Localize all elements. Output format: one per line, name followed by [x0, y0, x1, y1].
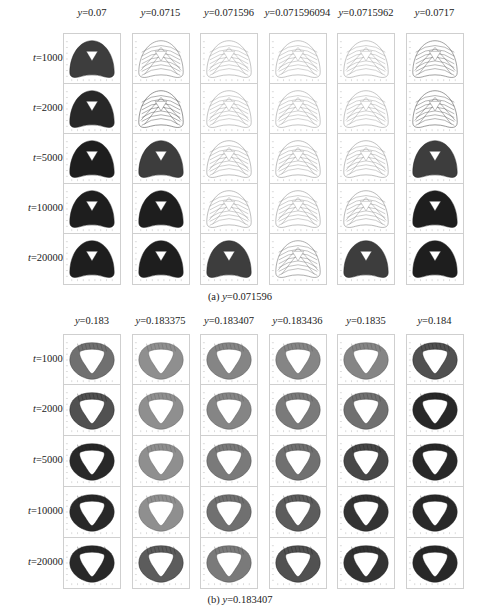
- column-header-a-5: y=0.0717: [395, 7, 475, 18]
- phase-portrait-plot: [132, 537, 190, 589]
- phase-portrait-plot: [269, 537, 327, 589]
- phase-portrait-plot: [63, 486, 121, 538]
- phase-portrait-plot: [200, 83, 258, 135]
- phase-portrait-plot: [200, 133, 258, 185]
- column-header-value: =0.071596094: [269, 7, 330, 18]
- phase-portrait-plot: [63, 83, 121, 135]
- column-header-value: =0.071596: [209, 7, 254, 18]
- phase-portrait-plot: [337, 33, 395, 85]
- phase-portrait-plot: [406, 486, 464, 538]
- row-label-value: =5000: [36, 152, 63, 163]
- phase-portrait-plot: [269, 486, 327, 538]
- column-header-value: =0.0715: [145, 7, 180, 18]
- phase-portrait-plot: [337, 486, 395, 538]
- caption-prefix: (b): [208, 594, 223, 605]
- row-label-value: =2000: [36, 102, 63, 113]
- phase-portrait-plot: [63, 33, 121, 85]
- phase-portrait-plot: [132, 486, 190, 538]
- phase-portrait-plot: [200, 537, 258, 589]
- phase-portrait-plot: [269, 435, 327, 487]
- phase-portrait-plot: [337, 183, 395, 235]
- caption-value: =0.183407: [227, 594, 272, 605]
- row-label-value: =1000: [36, 353, 63, 364]
- phase-portrait-plot: [63, 537, 121, 589]
- phase-portrait-plot: [406, 183, 464, 235]
- phase-portrait-plot: [132, 133, 190, 185]
- phase-portrait-plot: [200, 384, 258, 436]
- phase-portrait-plot: [269, 83, 327, 135]
- phase-portrait-plot: [200, 486, 258, 538]
- phase-portrait-plot: [337, 83, 395, 135]
- column-header-b-5: y=0.184: [395, 315, 475, 326]
- phase-portrait-plot: [63, 133, 121, 185]
- phase-portrait-plot: [406, 33, 464, 85]
- phase-portrait-plot: [200, 435, 258, 487]
- column-header-value: =0.183407: [209, 315, 254, 326]
- phase-portrait-plot: [269, 384, 327, 436]
- phase-portrait-plot: [337, 233, 395, 285]
- row-label-value: =10000: [31, 202, 63, 213]
- phase-portrait-plot: [269, 133, 327, 185]
- column-header-value: =0.184: [422, 315, 452, 326]
- column-header-value: =0.1835: [351, 315, 386, 326]
- phase-portrait-plot: [406, 537, 464, 589]
- column-header-value: =0.183375: [140, 315, 185, 326]
- phase-portrait-plot: [406, 384, 464, 436]
- caption-prefix: (a): [208, 291, 222, 302]
- phase-portrait-plot: [132, 334, 190, 386]
- phase-portrait-plot: [132, 33, 190, 85]
- row-label-value: =20000: [31, 556, 63, 567]
- phase-portrait-plot: [406, 233, 464, 285]
- phase-portrait-plot: [63, 233, 121, 285]
- phase-portrait-plot: [63, 334, 121, 386]
- phase-portrait-plot: [200, 183, 258, 235]
- row-label-value: =1000: [36, 52, 63, 63]
- phase-portrait-plot: [63, 435, 121, 487]
- phase-portrait-plot: [269, 233, 327, 285]
- phase-portrait-plot: [63, 384, 121, 436]
- column-header-value: =0.0717: [419, 7, 454, 18]
- phase-portrait-plot: [337, 334, 395, 386]
- column-header-value: =0.07: [82, 7, 106, 18]
- phase-portrait-plot: [406, 133, 464, 185]
- phase-portrait-plot: [63, 183, 121, 235]
- phase-portrait-plot: [132, 435, 190, 487]
- phase-portrait-plot: [269, 183, 327, 235]
- phase-portrait-plot: [200, 33, 258, 85]
- phase-portrait-plot: [200, 233, 258, 285]
- figure-caption-b: (b) y=0.183407: [0, 594, 480, 605]
- row-label-value: =20000: [31, 252, 63, 263]
- column-header-value: =0.0715962: [343, 7, 394, 18]
- phase-portrait-plot: [132, 233, 190, 285]
- column-header-value: =0.183: [80, 315, 110, 326]
- column-header-value: =0.183436: [277, 315, 322, 326]
- phase-portrait-plot: [337, 133, 395, 185]
- phase-portrait-plot: [406, 83, 464, 135]
- phase-portrait-plot: [200, 334, 258, 386]
- phase-portrait-plot: [337, 435, 395, 487]
- phase-portrait-plot: [269, 33, 327, 85]
- row-label-value: =5000: [36, 454, 63, 465]
- phase-portrait-plot: [337, 537, 395, 589]
- phase-portrait-plot: [132, 183, 190, 235]
- caption-value: =0.071596: [227, 291, 272, 302]
- phase-portrait-plot: [132, 384, 190, 436]
- phase-portrait-plot: [337, 384, 395, 436]
- row-label-value: =10000: [31, 505, 63, 516]
- phase-portrait-plot: [406, 435, 464, 487]
- phase-portrait-plot: [269, 334, 327, 386]
- phase-portrait-plot: [132, 83, 190, 135]
- phase-portrait-plot: [406, 334, 464, 386]
- row-label-value: =2000: [36, 403, 63, 414]
- figure-caption-a: (a) y=0.071596: [0, 291, 480, 302]
